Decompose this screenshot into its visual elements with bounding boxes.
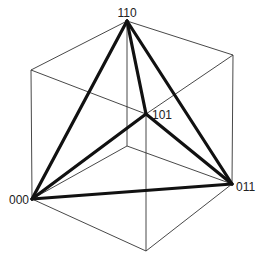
cube-edge-vBack-v011 (127, 146, 232, 184)
tetrahedron-in-cube-diagram: 110 101 000 011 (0, 0, 262, 261)
tetra-edge-v101-v011 (146, 114, 232, 184)
vertex-label-101: 101 (152, 108, 172, 122)
tetra-edge-v000-v101 (32, 114, 146, 199)
cube-edge-vTR-v011 (232, 55, 233, 184)
cube-edge-v000-vBot (32, 199, 146, 251)
vertex-label-011: 011 (236, 180, 255, 194)
tetrahedron-edges (32, 21, 232, 199)
cube-edge-v101-vTR (146, 55, 233, 114)
cube-edge-vTL-v000 (31, 70, 32, 199)
cube-edge-v011-vBot (146, 184, 232, 251)
tetra-edge-v000-v011 (32, 184, 232, 199)
vertex-label-000: 000 (9, 193, 29, 207)
cube-edge-v110-vTR (127, 21, 233, 55)
vertex-label-110: 110 (117, 6, 136, 20)
